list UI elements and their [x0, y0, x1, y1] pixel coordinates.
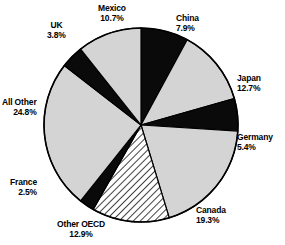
pie-slice-group	[44, 28, 238, 222]
pie-label-uk-value: 3.8%	[47, 31, 66, 41]
pie-label-japan-value: 12.7%	[237, 84, 261, 94]
pie-label-mexico: Mexico 10.7%	[98, 4, 126, 24]
pie-label-germany-value: 5.4%	[237, 143, 273, 153]
pie-label-france-value: 2.5%	[10, 188, 37, 198]
pie-label-china-value: 7.9%	[176, 24, 199, 34]
pie-label-other-oecd-value: 12.9%	[57, 230, 105, 240]
pie-label-mexico-value: 10.7%	[98, 14, 126, 24]
pie-label-france: France 2.5%	[10, 178, 37, 198]
pie-label-all-other-value: 24.8%	[2, 108, 37, 118]
pie-label-japan: Japan 12.7%	[237, 74, 261, 94]
pie-label-china: China 7.9%	[176, 14, 199, 34]
pie-label-other-oecd: Other OECD 12.9%	[57, 220, 105, 240]
pie-label-all-other: All Other 24.8%	[2, 98, 37, 118]
pie-label-germany: Germany 5.4%	[237, 133, 273, 153]
pie-label-uk: UK 3.8%	[47, 21, 66, 41]
pie-chart-figure: Mexico 10.7% UK 3.8% China 7.9% Japan 12…	[0, 0, 285, 245]
pie-label-canada-value: 19.3%	[196, 216, 226, 226]
pie-label-canada: Canada 19.3%	[196, 206, 226, 226]
pie-chart-svg	[0, 0, 285, 245]
